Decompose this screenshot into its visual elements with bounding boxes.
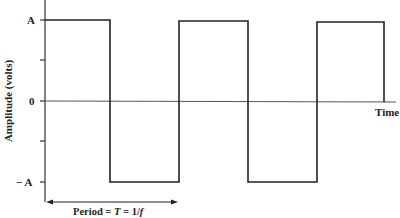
square-wave-diagram: A 0 − A Amplitude (volts) Time Period = … (0, 0, 400, 218)
tick-label-a: A (27, 14, 35, 26)
tick-label-neg-a: − A (16, 176, 32, 188)
y-axis-label: Amplitude (volts) (2, 60, 15, 143)
period-annotation: Period = T = 1/f (73, 206, 145, 217)
period-arrow-left-head (46, 200, 53, 205)
time-axis (45, 101, 396, 102)
tick-label-zero: 0 (29, 95, 35, 107)
period-mid: = 1/ (120, 206, 140, 217)
period-f: f (140, 206, 145, 217)
x-axis-label: Time (375, 106, 399, 118)
period-arrow-right-head (171, 200, 178, 205)
period-prefix: Period = (73, 206, 114, 217)
